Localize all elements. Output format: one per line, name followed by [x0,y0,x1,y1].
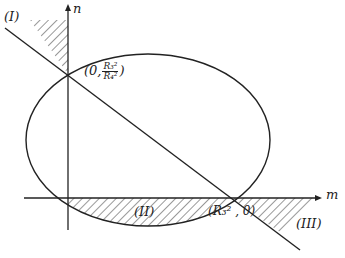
y-intercept-fraction: R₃²R₄² [102,62,118,81]
n-axis-label: n [73,2,81,15]
m-axis-arrow-icon [315,195,322,201]
region-I-hatch [30,20,68,74]
fraction-denominator: R₄² [103,72,117,81]
region-I-label: (I) [4,10,19,23]
region-III-label: (III) [296,217,322,230]
x-intercept-label: (R₃² , 0) [208,205,255,217]
n-axis-arrow-icon [65,4,71,11]
region-II-label: (II) [134,205,154,218]
y-intercept-suffix: ) [119,63,124,78]
y-intercept-prefix: (0, [84,63,101,78]
y-intercept-label: (0,R₃²R₄²) [84,62,125,81]
diagram-svg [0,0,345,258]
diagram-canvas: n m (I) (II) (III) (0,R₃²R₄²) (R₃² , 0) [0,0,345,258]
m-axis-label: m [326,188,338,201]
